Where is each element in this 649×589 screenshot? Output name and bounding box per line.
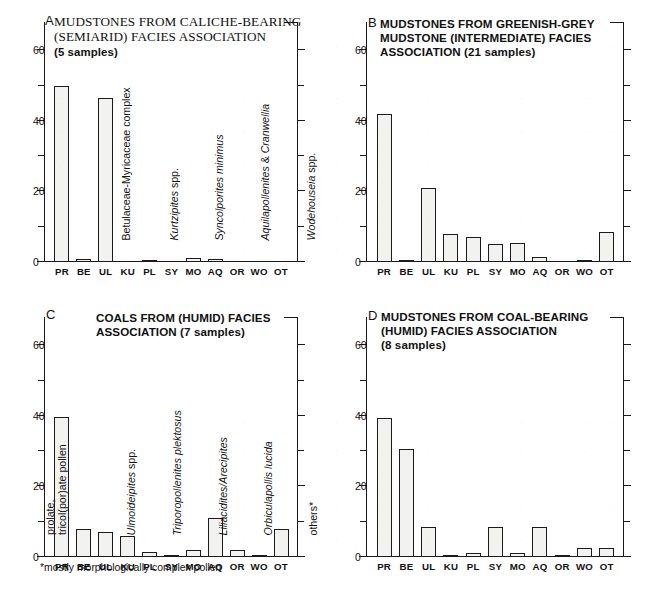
y-tick-right-0 <box>624 556 631 557</box>
x-axis-label-wo: WO <box>248 561 270 572</box>
species-label-ulmoideipites: Ulmoideipites spp. <box>126 448 138 535</box>
bar-mo <box>186 550 201 557</box>
y-axis-label-20: 20 <box>33 185 34 197</box>
species-label-kurtzipites: Kurtzipites spp. <box>169 168 181 240</box>
x-axis-label-be: BE <box>395 266 417 277</box>
x-axis-label-or: OR <box>551 561 573 572</box>
y-tick-right-60 <box>624 49 631 50</box>
species-label-others: others* <box>308 501 320 535</box>
panel-b-x-labels: PRBEULKUPLSYMOAQORWOOT <box>366 266 624 277</box>
bar-slot-pl <box>462 317 484 557</box>
x-axis-label-ot: OT <box>596 561 618 572</box>
y-axis-label-60: 60 <box>355 44 356 56</box>
bar-slot-ot <box>596 317 618 557</box>
species-label-prolate-tricolporate: prolate, tricol(por)ate pollen <box>45 444 68 535</box>
x-axis-label-ot: OT <box>270 561 292 572</box>
bar-or <box>230 550 245 557</box>
bar-slot-ku <box>440 317 462 557</box>
x-axis-label-ot: OT <box>596 266 618 277</box>
bar-slot-mo <box>182 317 204 557</box>
bar-or <box>555 261 570 262</box>
y-axis-label-0: 0 <box>355 551 356 563</box>
x-axis-label-pr: PR <box>373 266 395 277</box>
bar-pr <box>377 114 392 262</box>
y-axis-label-60: 60 <box>33 339 34 351</box>
x-axis-label-pl: PL <box>139 266 161 277</box>
bar-ku <box>443 555 458 557</box>
pollen-figure: A MUDSTONES FROM CALICHE-BEARING (SEMIAR… <box>0 0 649 589</box>
bar-sy <box>164 555 179 557</box>
panel-d: D MUDSTONES FROM COAL-BEARING (HUMID) FA… <box>324 295 649 589</box>
y-tick-right-50 <box>624 85 630 86</box>
bar-slot-ul <box>95 317 117 557</box>
panel-d-x-labels: PRBEULKUPLSYMOAQORWOOT <box>366 561 624 572</box>
bar-mo <box>510 243 525 262</box>
x-axis-label-be: BE <box>395 561 417 572</box>
bar-slot-pr <box>373 22 395 262</box>
y-tick-right-20 <box>624 485 631 486</box>
y-tick-right-0 <box>624 261 631 262</box>
bar-slot-or <box>551 317 573 557</box>
bar-slot-or <box>226 22 248 262</box>
y-tick-right-10 <box>624 226 630 227</box>
y-axis-label-0: 0 <box>33 256 34 268</box>
bar-slot-sy <box>484 22 506 262</box>
panel-d-plot: 0204060 PRBEULKUPLSYMOAQORWOOT <box>366 317 624 557</box>
species-label-betulaceae: Betulaceae-Myricaceae complex <box>121 87 133 240</box>
bar-ul <box>98 98 113 262</box>
bar-ul <box>421 527 436 557</box>
x-axis-label-or: OR <box>226 266 248 277</box>
y-axis-label-60: 60 <box>355 339 356 351</box>
y-axis-label-40: 40 <box>33 115 34 127</box>
bar-slot-wo <box>573 317 595 557</box>
panel-c: C COALS FROM (HUMID) FACIES ASSOCIATION … <box>0 295 324 589</box>
bar-slot-or <box>226 317 248 557</box>
x-axis-label-be: BE <box>73 266 95 277</box>
x-axis-label-ku: KU <box>440 561 462 572</box>
species-label-orbiculapollis: Orbiculapollis lucida <box>263 441 275 535</box>
y-tick-right-0 <box>298 556 305 557</box>
x-axis-label-ku: KU <box>117 266 139 277</box>
y-tick-right-30 <box>624 450 630 451</box>
bar-ot <box>599 548 614 557</box>
x-axis-label-pr: PR <box>51 266 73 277</box>
bar-mo <box>510 553 525 557</box>
x-axis-label-mo: MO <box>182 266 204 277</box>
y-axis-label-40: 40 <box>33 410 34 422</box>
y-axis-label-40: 40 <box>355 115 356 127</box>
species-label-syncolporites: Syncolporites minimus <box>214 134 226 240</box>
y-tick-right-40 <box>298 120 305 121</box>
y-tick-right-10 <box>298 226 304 227</box>
bar-aq <box>532 257 547 262</box>
bar-wo <box>252 261 267 262</box>
y-tick-right-10 <box>298 521 304 522</box>
bar-slot-aq <box>529 317 551 557</box>
species-label-aquilapollenites: Aquilapollenites & Cranwellia <box>260 103 272 240</box>
bar-slot-or <box>551 22 573 262</box>
y-tick-right-50 <box>298 380 304 381</box>
x-axis-label-sy: SY <box>484 266 506 277</box>
y-tick-right-30 <box>298 155 304 156</box>
panel-d-bars <box>366 317 624 557</box>
panel-a: A MUDSTONES FROM CALICHE-BEARING (SEMIAR… <box>0 0 324 295</box>
x-axis-label-mo: MO <box>507 561 529 572</box>
bar-be <box>399 449 414 557</box>
y-tick-right-40 <box>624 415 631 416</box>
bar-be <box>399 260 414 262</box>
bar-sy <box>488 527 503 557</box>
bar-pl <box>142 552 157 557</box>
panel-a-x-labels: PRBEULKUPLSYMOAQORWOOT <box>44 266 298 277</box>
y-axis-label-20: 20 <box>355 185 356 197</box>
y-axis-label-0: 0 <box>355 256 356 268</box>
x-axis-label-ul: UL <box>418 561 440 572</box>
x-axis-label-ul: UL <box>95 266 117 277</box>
x-axis-label-ul: UL <box>418 266 440 277</box>
panel-c-footnote: *mostly morphologically complex pollen <box>40 562 221 573</box>
bar-mo <box>186 258 201 262</box>
bar-wo <box>577 548 592 557</box>
y-tick-right-60 <box>298 344 305 345</box>
x-axis-label-wo: WO <box>573 561 595 572</box>
bar-slot-pr <box>373 317 395 557</box>
bar-slot-be <box>395 22 417 262</box>
y-tick-right-0 <box>298 261 305 262</box>
